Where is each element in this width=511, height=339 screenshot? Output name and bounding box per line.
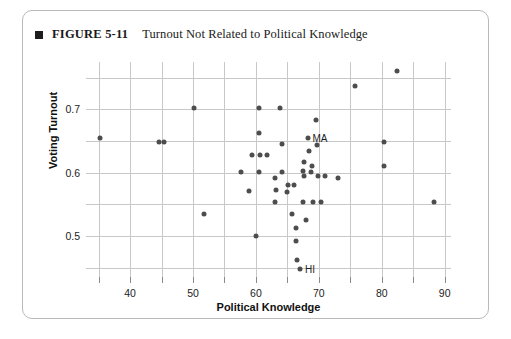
data-point [274,188,279,193]
data-point [272,175,277,180]
figure-card: FIGURE 5-11 Turnout Not Related to Polit… [22,10,489,319]
data-point [309,163,314,168]
gridline-horizontal [86,268,451,269]
data-point [301,173,306,178]
x-tick-mark [99,277,100,283]
data-point [238,170,243,175]
data-point [308,170,313,175]
gridline-horizontal [86,78,451,79]
x-tick-label: 90 [439,287,451,299]
data-point [257,131,262,136]
gridline-vertical [413,62,414,277]
y-tick-label: 0.6 [56,167,80,179]
data-point [301,159,306,164]
data-point [265,152,270,157]
gridline-vertical [99,62,100,277]
gridline-vertical [350,62,351,277]
data-point [382,163,387,168]
data-point [257,152,262,157]
data-point [316,174,321,179]
gridline-vertical [130,62,131,277]
data-point [253,233,258,238]
figure-title: Turnout Not Related to Political Knowled… [142,27,368,42]
data-point [294,226,299,231]
data-point [381,140,386,145]
data-point [257,105,262,110]
gridline-vertical [224,62,225,277]
x-tick-mark [130,277,131,283]
x-tick-mark [350,277,351,283]
data-point [322,174,327,179]
data-point [98,135,103,140]
gridline-vertical [193,62,194,277]
data-point-label: HI [305,264,315,275]
data-point [314,143,319,148]
data-point-label: MA [313,132,328,143]
y-tick-label: 0.7 [56,103,80,115]
data-point [273,200,278,205]
x-tick-label: 40 [124,287,136,299]
data-point [353,84,358,89]
data-point [286,183,291,188]
data-point [394,69,399,74]
data-point [280,170,285,175]
data-point [293,238,298,243]
x-tick-mark [445,277,446,283]
data-point [280,142,285,147]
x-tick-label: 70 [313,287,325,299]
x-tick-mark [287,277,288,283]
data-point [303,218,308,223]
data-point [314,118,319,123]
data-point [291,183,296,188]
gridline-vertical [162,62,163,277]
x-tick-label: 80 [376,287,388,299]
x-tick-mark [256,277,257,283]
data-point [294,257,299,262]
figure-number: FIGURE 5-11 [52,27,128,42]
y-tick-label: 0.5 [56,230,80,242]
data-point [246,189,251,194]
data-point [306,149,311,154]
x-tick-mark [319,277,320,283]
data-point [432,200,437,205]
x-tick-label: 50 [187,287,199,299]
square-bullet-icon [35,31,43,39]
x-tick-mark [224,277,225,283]
data-point [305,135,310,140]
data-point [290,211,295,216]
x-tick-mark [413,277,414,283]
x-axis-label: Political Knowledge [86,301,451,313]
data-point [311,200,316,205]
data-point [278,105,283,110]
data-point [318,200,323,205]
data-point [162,140,167,145]
x-tick-label: 60 [250,287,262,299]
data-point [335,175,340,180]
gridline-horizontal [86,141,451,142]
gridline-horizontal [86,204,451,205]
gridline-vertical [319,62,320,277]
gridline-horizontal [86,173,451,174]
gridline-vertical [382,62,383,277]
figure-caption: FIGURE 5-11 Turnout Not Related to Polit… [35,27,368,42]
gridline-horizontal [86,236,451,237]
data-point [202,211,207,216]
gridline-vertical [445,62,446,277]
data-point [191,105,196,110]
data-point [297,267,302,272]
data-point [301,169,306,174]
data-point [285,189,290,194]
data-point [301,200,306,205]
scatter-plot: HIMA [86,62,451,277]
x-tick-mark [162,277,163,283]
gridline-vertical [287,62,288,277]
gridline-horizontal [86,109,451,110]
x-tick-mark [382,277,383,283]
data-point [250,152,255,157]
x-tick-mark [193,277,194,283]
data-point [257,170,262,175]
